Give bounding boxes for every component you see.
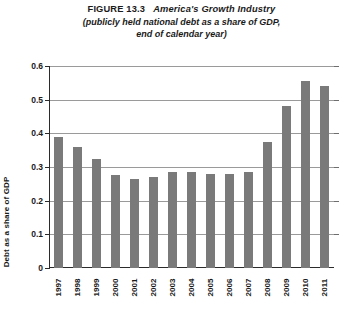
- bar-slot: [163, 66, 182, 268]
- bar-slot: [201, 66, 220, 268]
- bar-slot: [239, 66, 258, 268]
- bar-chart: Debt as a share of GDP 00.10.20.30.40.50…: [0, 56, 363, 318]
- y-axis-tick-right: [334, 167, 339, 168]
- x-axis-label-slot: 2008: [258, 270, 277, 316]
- bar-2005[interactable]: [206, 174, 215, 268]
- x-axis-label-slot: 2006: [220, 270, 239, 316]
- bars-layer: [49, 66, 334, 268]
- bar-2006[interactable]: [225, 174, 234, 268]
- x-axis-label-slot: 2009: [277, 270, 296, 316]
- bar-slot: [182, 66, 201, 268]
- bar-1999[interactable]: [92, 159, 101, 268]
- y-axis-tick-label: 0.3: [31, 162, 43, 172]
- x-axis-tick-label: 1997: [54, 278, 63, 296]
- bar-2002[interactable]: [149, 177, 158, 268]
- bar-slot: [125, 66, 144, 268]
- x-axis-label-slot: 1999: [87, 270, 106, 316]
- x-axis-tick-label: 2008: [263, 278, 272, 296]
- bar-slot: [220, 66, 239, 268]
- x-axis-label-slot: 2010: [296, 270, 315, 316]
- figure-subtitle-line-2: end of calendar year): [0, 29, 363, 41]
- x-axis-label-slot: 1997: [49, 270, 68, 316]
- bar-slot: [106, 66, 125, 268]
- bar-slot: [49, 66, 68, 268]
- bar-slot: [296, 66, 315, 268]
- y-axis-tick-right: [334, 133, 339, 134]
- x-axis-tick-label: 2000: [111, 278, 120, 296]
- y-axis-tick-label: 0.5: [31, 95, 43, 105]
- x-axis-label-slot: 2001: [125, 270, 144, 316]
- x-axis-label-slot: 2007: [239, 270, 258, 316]
- x-axis-tick-label: 1999: [92, 278, 101, 296]
- x-axis-tick-label: 2005: [206, 278, 215, 296]
- x-axis-tick-label: 1998: [73, 278, 82, 296]
- x-axis-tick-label: 2006: [225, 278, 234, 296]
- bar-1998[interactable]: [73, 147, 82, 268]
- y-axis-tick-right: [334, 66, 339, 67]
- bar-slot: [258, 66, 277, 268]
- x-axis-label-slot: 2000: [106, 270, 125, 316]
- bar-1997[interactable]: [54, 137, 63, 268]
- bar-2003[interactable]: [168, 172, 177, 268]
- bar-2008[interactable]: [263, 142, 272, 268]
- bar-slot: [87, 66, 106, 268]
- bar-2011[interactable]: [320, 86, 329, 268]
- x-axis-label-slot: 2004: [182, 270, 201, 316]
- bar-2004[interactable]: [187, 172, 196, 268]
- y-axis-tick-label: 0.4: [31, 128, 43, 138]
- bar-slot: [277, 66, 296, 268]
- x-axis-tick-label: 2009: [282, 278, 291, 296]
- figure-name: America's Growth Industry: [153, 4, 275, 14]
- figure-subtitle: (publicly held national debt as a share …: [0, 17, 363, 40]
- y-axis-tick-label: 0: [38, 263, 43, 273]
- x-axis-label-slot: 2003: [163, 270, 182, 316]
- bar-2001[interactable]: [130, 179, 139, 268]
- x-axis-label-slot: 2011: [315, 270, 334, 316]
- x-axis-tick-label: 2001: [130, 278, 139, 296]
- bar-2000[interactable]: [111, 175, 120, 268]
- bar-2007[interactable]: [244, 172, 253, 268]
- plot-area: 00.10.20.30.40.50.6: [49, 66, 334, 268]
- bar-slot: [315, 66, 334, 268]
- x-axis-tick-label: 2011: [320, 279, 329, 297]
- y-axis-tick-right: [334, 100, 339, 101]
- bar-slot: [68, 66, 87, 268]
- x-axis-label-slot: 2002: [144, 270, 163, 316]
- y-axis-label: Debt as a share of GDP: [12, 12, 21, 152]
- y-axis-tick-label: 0.6: [31, 61, 43, 71]
- figure-number: FIGURE 13.3: [88, 4, 145, 14]
- x-axis-tick-label: 2010: [301, 278, 310, 296]
- y-axis-tick-right: [334, 201, 339, 202]
- x-axis-tick-label: 2004: [187, 278, 196, 296]
- x-axis-tick-label: 2007: [244, 278, 253, 296]
- y-axis-tick-right: [334, 234, 339, 235]
- bar-2009[interactable]: [282, 106, 291, 268]
- y-axis-tick-label: 0.2: [31, 196, 43, 206]
- figure-subtitle-line-1: (publicly held national debt as a share …: [0, 17, 363, 29]
- y-axis-label-text: Debt as a share of GDP: [2, 152, 11, 292]
- figure-title: FIGURE 13.3 America's Growth Industry: [0, 0, 363, 15]
- x-axis-label-slot: 2005: [201, 270, 220, 316]
- x-axis-labels: 1997199819992000200120022003200420052006…: [49, 270, 334, 316]
- x-axis-tick-label: 2003: [168, 278, 177, 296]
- bar-slot: [144, 66, 163, 268]
- y-axis-tick-label: 0.1: [31, 229, 43, 239]
- bar-2010[interactable]: [301, 81, 310, 268]
- x-axis-tick-label: 2002: [149, 278, 158, 296]
- y-axis-tick: [45, 268, 50, 269]
- x-axis-label-slot: 1998: [68, 270, 87, 316]
